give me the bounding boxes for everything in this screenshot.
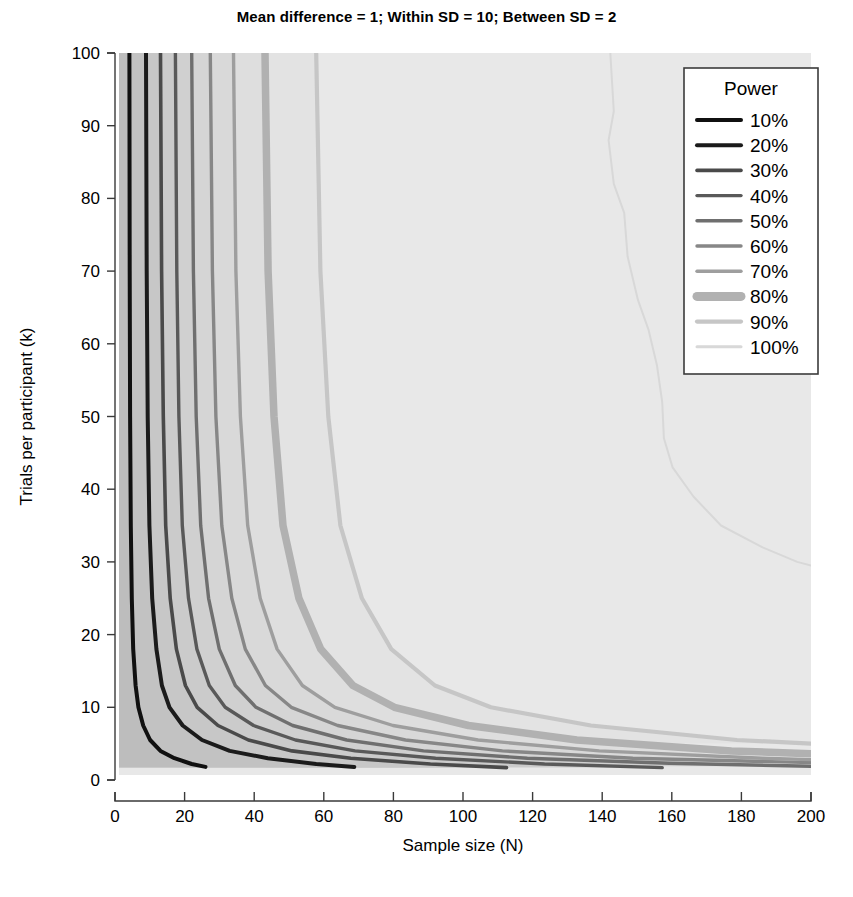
power-contour-chart: 0102030405060708090100020406080100120140… — [0, 0, 853, 897]
y-tick-label: 50 — [81, 408, 100, 427]
x-tick-label: 100 — [449, 807, 477, 826]
legend-label-70%: 70% — [750, 261, 788, 282]
x-tick-label: 40 — [245, 807, 264, 826]
y-tick-label: 100 — [72, 44, 100, 63]
x-tick-label: 120 — [518, 807, 546, 826]
y-tick-label: 70 — [81, 262, 100, 281]
x-tick-label: 140 — [588, 807, 616, 826]
x-tick-label: 180 — [727, 807, 755, 826]
x-tick-label: 60 — [314, 807, 333, 826]
y-tick-label: 20 — [81, 626, 100, 645]
legend-label-30%: 30% — [750, 160, 788, 181]
legend-label-20%: 20% — [750, 135, 788, 156]
legend-label-80%: 80% — [750, 286, 788, 307]
legend-label-100%: 100% — [750, 337, 799, 358]
legend-title: Power — [724, 78, 779, 99]
legend-label-40%: 40% — [750, 186, 788, 207]
legend-label-10%: 10% — [750, 110, 788, 131]
y-tick-label: 40 — [81, 480, 100, 499]
y-tick-label: 0 — [91, 771, 100, 790]
x-tick-label: 0 — [110, 807, 119, 826]
chart-page: Mean difference = 1; Within SD = 10; Bet… — [0, 0, 853, 897]
x-axis: 020406080100120140160180200 — [110, 792, 825, 826]
x-tick-label: 20 — [175, 807, 194, 826]
y-tick-label: 90 — [81, 117, 100, 136]
x-tick-label: 200 — [797, 807, 825, 826]
y-axis: 0102030405060708090100 — [72, 44, 115, 790]
y-tick-label: 80 — [81, 189, 100, 208]
x-tick-label: 160 — [658, 807, 686, 826]
x-tick-label: 80 — [384, 807, 403, 826]
x-axis-title: Sample size (N) — [403, 836, 524, 855]
legend-label-90%: 90% — [750, 312, 788, 333]
y-tick-label: 30 — [81, 553, 100, 572]
y-axis-title: Trials per participant (k) — [17, 328, 36, 506]
legend-label-50%: 50% — [750, 211, 788, 232]
legend-label-60%: 60% — [750, 236, 788, 257]
y-tick-label: 60 — [81, 335, 100, 354]
y-tick-label: 10 — [81, 698, 100, 717]
legend: Power10%20%30%40%50%60%70%80%90%100% — [684, 68, 818, 374]
